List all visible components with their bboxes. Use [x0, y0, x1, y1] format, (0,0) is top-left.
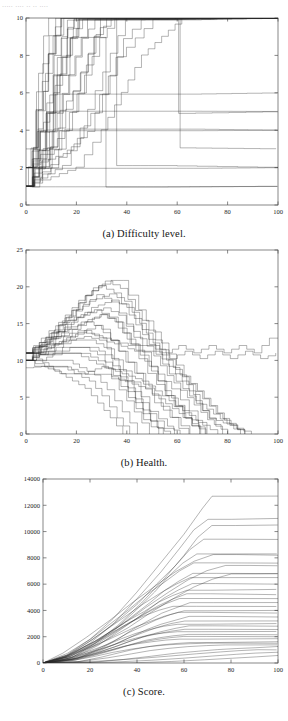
svg-text:10: 10 [17, 357, 24, 364]
svg-text:100: 100 [273, 437, 283, 444]
svg-text:10: 10 [17, 14, 24, 21]
svg-text:60: 60 [174, 208, 181, 215]
health-chart-svg: 0204060801000510152025 [0, 244, 288, 456]
svg-text:10000: 10000 [24, 528, 40, 535]
svg-text:20: 20 [17, 283, 24, 290]
svg-text:20: 20 [73, 208, 80, 215]
caption-b: (b) Health. [0, 457, 288, 468]
svg-text:5: 5 [20, 394, 23, 401]
svg-text:14000: 14000 [24, 475, 40, 482]
page-header-fragment: ..... .... .. .. .... [0, 0, 288, 12]
svg-text:2: 2 [20, 164, 23, 171]
svg-text:4: 4 [20, 127, 24, 134]
svg-text:0: 0 [41, 666, 44, 673]
svg-text:60: 60 [181, 666, 188, 673]
plot-difficulty: 0204060801000246810 [0, 12, 288, 227]
figure-page: ..... .... .. .. .... 020406080100024681… [0, 0, 288, 721]
plot-health: 0204060801000510152025 [0, 244, 288, 456]
svg-text:100: 100 [273, 208, 283, 215]
svg-text:8000: 8000 [27, 554, 40, 561]
figure-score: 0204060801000200040006000800010000120001… [0, 473, 288, 703]
svg-text:80: 80 [228, 666, 235, 673]
svg-text:20: 20 [73, 437, 80, 444]
svg-text:6: 6 [20, 89, 24, 96]
figure-health: 0204060801000510152025 (b) Health. [0, 244, 288, 473]
svg-text:6000: 6000 [27, 580, 40, 587]
caption-c: (c) Score. [0, 686, 288, 697]
svg-text:8: 8 [20, 52, 23, 59]
svg-text:25: 25 [17, 246, 24, 253]
svg-text:2000: 2000 [27, 633, 40, 640]
svg-text:0: 0 [24, 208, 27, 215]
plot-score: 0204060801000200040006000800010000120001… [0, 473, 288, 685]
svg-text:15: 15 [17, 320, 24, 327]
svg-text:0: 0 [37, 659, 40, 666]
svg-text:12000: 12000 [24, 502, 40, 509]
figure-difficulty: 0204060801000246810 (a) Difficulty level… [0, 12, 288, 244]
difficulty-chart-svg: 0204060801000246810 [0, 12, 288, 227]
svg-text:60: 60 [174, 437, 181, 444]
svg-text:80: 80 [224, 208, 231, 215]
caption-a: (a) Difficulty level. [0, 228, 288, 239]
svg-text:40: 40 [124, 208, 131, 215]
svg-text:20: 20 [87, 666, 94, 673]
svg-text:80: 80 [224, 437, 231, 444]
svg-text:100: 100 [273, 666, 283, 673]
svg-text:40: 40 [124, 437, 131, 444]
svg-text:0: 0 [20, 201, 23, 208]
svg-text:0: 0 [20, 430, 23, 437]
svg-text:4000: 4000 [27, 607, 40, 614]
svg-text:0: 0 [24, 437, 27, 444]
svg-text:40: 40 [134, 666, 141, 673]
score-chart-svg: 0204060801000200040006000800010000120001… [0, 473, 288, 685]
